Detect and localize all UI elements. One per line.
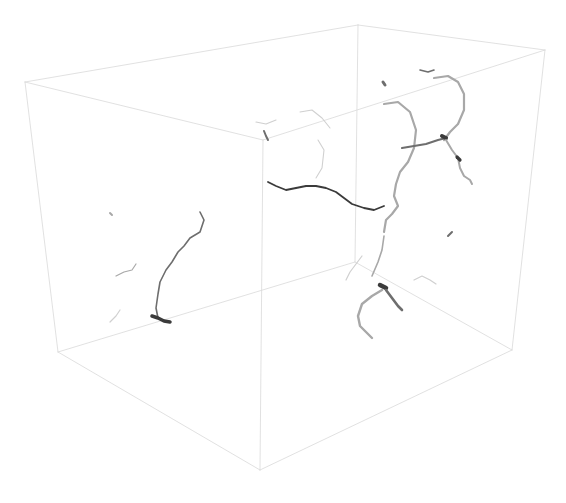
center-upper-twig bbox=[300, 110, 330, 128]
lower-cluster-left bbox=[346, 256, 362, 280]
left-vertical-edge bbox=[25, 82, 58, 352]
right-descender bbox=[446, 140, 472, 184]
left-dot bbox=[110, 213, 112, 215]
bottom-left-edge bbox=[58, 352, 260, 470]
top-right-edge bbox=[358, 25, 545, 50]
center-mid-twig bbox=[316, 140, 324, 178]
right-loop-right-arm bbox=[434, 76, 464, 140]
right-loop-bridge bbox=[402, 138, 446, 148]
top-back-edge bbox=[25, 25, 358, 82]
right-node-2 bbox=[457, 157, 460, 160]
right-top-dot bbox=[383, 82, 385, 85]
3d-volume-scene[interactable] bbox=[0, 0, 566, 503]
hidden-back-bottom-right-edge bbox=[355, 262, 512, 350]
volume-render-viewport[interactable] bbox=[0, 0, 566, 503]
filament-network bbox=[110, 70, 472, 338]
top-front-left-edge bbox=[25, 82, 263, 140]
right-node bbox=[442, 136, 446, 138]
hidden-back-bottom-left-edge bbox=[58, 262, 355, 352]
top-front-right-edge bbox=[263, 50, 545, 140]
lower-cluster-knot bbox=[380, 285, 386, 288]
left-branch-side bbox=[116, 264, 136, 276]
bounding-box-wireframe bbox=[25, 25, 545, 470]
right-mid-stub bbox=[448, 232, 452, 236]
lower-cluster-stem bbox=[372, 236, 384, 276]
center-horizontal bbox=[268, 182, 384, 210]
bottom-right-edge bbox=[260, 350, 512, 470]
lower-cluster-tail bbox=[386, 290, 402, 310]
left-branch-lower bbox=[110, 310, 120, 322]
front-vertical-edge bbox=[260, 140, 263, 470]
front-top-stub-cap bbox=[256, 120, 276, 124]
right-vertical-edge bbox=[512, 50, 545, 350]
lower-cluster-hook bbox=[358, 290, 382, 338]
hidden-back-vertical-edge bbox=[355, 25, 358, 262]
right-loop-left-arm bbox=[384, 102, 416, 232]
lower-cluster-twig bbox=[414, 276, 436, 284]
left-branch-main bbox=[156, 212, 204, 318]
right-top-cap bbox=[420, 70, 434, 72]
